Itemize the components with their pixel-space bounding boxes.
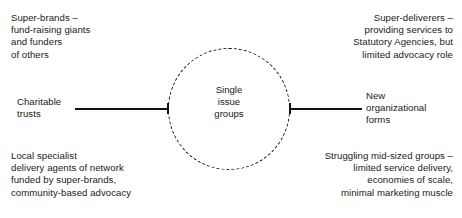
quadrant-label-bottom-left: Local specialist delivery agents of netw… bbox=[11, 150, 211, 199]
central-circle-label: Single issue groups bbox=[168, 84, 290, 121]
quadrant-label-bottom-right: Struggling mid-sized groups – limited se… bbox=[253, 150, 453, 199]
diagram-canvas: Super-brands – fund-raising giants and f… bbox=[0, 0, 462, 218]
quadrant-label-top-right: Super-deliverers – providing services to… bbox=[263, 12, 453, 61]
axis-label-left: Charitable trusts bbox=[17, 96, 77, 120]
connector-line-right bbox=[290, 108, 362, 110]
connector-line-left bbox=[75, 108, 169, 110]
axis-label-right: New organizational forms bbox=[366, 90, 461, 127]
quadrant-label-top-left: Super-brands – fund-raising giants and f… bbox=[11, 12, 161, 61]
